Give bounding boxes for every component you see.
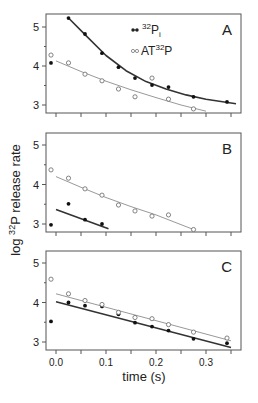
panel-c: 345C0.00.10.20.3 bbox=[33, 251, 241, 368]
data-point-open bbox=[83, 72, 87, 76]
data-point-filled bbox=[49, 320, 53, 324]
data-point-filled bbox=[49, 223, 53, 227]
data-point-filled bbox=[133, 76, 137, 80]
data-point-filled bbox=[49, 61, 53, 65]
data-point-filled bbox=[83, 32, 87, 36]
panel-label: C bbox=[221, 258, 232, 275]
figure: 345A345B345C0.00.10.20.3 log 32P release… bbox=[0, 0, 258, 403]
data-point-open bbox=[166, 97, 170, 101]
data-point-filled bbox=[192, 95, 196, 99]
data-point-filled bbox=[167, 329, 171, 333]
x-tick-label: 0.0 bbox=[49, 357, 63, 368]
open-marker-icon bbox=[131, 49, 134, 52]
data-point-filled bbox=[117, 65, 121, 69]
data-point-filled bbox=[225, 100, 229, 104]
data-point-open bbox=[83, 187, 87, 191]
y-tick-label: 4 bbox=[33, 297, 39, 309]
svg-text:AT32P: AT32P bbox=[141, 43, 172, 58]
panel-label: B bbox=[222, 140, 232, 157]
data-point-filled bbox=[83, 304, 87, 308]
data-point-open bbox=[49, 277, 53, 281]
y-tick-label: 5 bbox=[33, 257, 39, 269]
data-point-open bbox=[191, 227, 195, 231]
data-point-filled bbox=[83, 218, 87, 222]
data-point-open bbox=[66, 292, 70, 296]
y-axis-label: log 32P release rate bbox=[7, 144, 23, 256]
x-tick-label: 0.3 bbox=[199, 357, 213, 368]
data-point-open bbox=[66, 176, 70, 180]
data-point-open bbox=[150, 317, 154, 321]
data-point-filled bbox=[67, 301, 71, 305]
data-point-open bbox=[166, 213, 170, 217]
data-point-open bbox=[49, 53, 53, 57]
y-tick-label: 3 bbox=[33, 336, 39, 348]
data-point-open bbox=[66, 61, 70, 65]
fit-line bbox=[56, 302, 231, 348]
data-point-filled bbox=[150, 325, 154, 329]
fit-line bbox=[56, 177, 194, 230]
fit-line bbox=[56, 61, 206, 111]
data-point-open bbox=[133, 95, 137, 99]
data-point-open bbox=[100, 79, 104, 83]
data-point-open bbox=[116, 203, 120, 207]
open-marker-icon bbox=[135, 49, 138, 52]
data-point-open bbox=[100, 193, 104, 197]
data-point-open bbox=[191, 330, 195, 334]
x-tick-label: 0.1 bbox=[99, 357, 113, 368]
data-point-filled bbox=[100, 222, 104, 226]
y-tick-label: 4 bbox=[33, 179, 39, 191]
y-tick-label: 4 bbox=[33, 60, 39, 72]
chart-svg: 345A345B345C0.00.10.20.3 log 32P release… bbox=[0, 0, 258, 403]
data-point-filled bbox=[167, 85, 171, 89]
y-tick-label: 5 bbox=[33, 21, 39, 33]
panel-label: A bbox=[222, 21, 232, 38]
x-tick-label: 0.2 bbox=[149, 357, 163, 368]
panel-b: 345B bbox=[33, 133, 241, 236]
data-point-filled bbox=[225, 341, 229, 345]
data-point-open bbox=[133, 315, 137, 319]
data-point-open bbox=[133, 209, 137, 213]
data-point-filled bbox=[150, 83, 154, 87]
legend-item-pi: 32Pi bbox=[131, 22, 161, 39]
fit-line bbox=[56, 294, 231, 341]
data-point-open bbox=[100, 302, 104, 306]
fit-line bbox=[56, 209, 109, 228]
data-point-open bbox=[225, 336, 229, 340]
data-point-filled bbox=[67, 202, 71, 206]
data-point-open bbox=[191, 107, 195, 111]
data-point-open bbox=[166, 323, 170, 327]
data-point-open bbox=[150, 214, 154, 218]
svg-text:32Pi: 32Pi bbox=[142, 22, 161, 39]
data-point-open bbox=[49, 168, 53, 172]
legend: 32Pi AT32P bbox=[131, 22, 172, 58]
data-point-filled bbox=[100, 51, 104, 55]
data-point-open bbox=[150, 76, 154, 80]
legend-item-atp: AT32P bbox=[131, 43, 172, 58]
y-tick-label: 3 bbox=[33, 218, 39, 230]
x-axis-label: time (s) bbox=[122, 369, 165, 384]
data-point-filled bbox=[133, 321, 137, 325]
data-point-open bbox=[116, 87, 120, 91]
data-point-filled bbox=[67, 16, 71, 20]
data-point-open bbox=[83, 298, 87, 302]
data-point-filled bbox=[192, 337, 196, 341]
data-point-open bbox=[116, 310, 120, 314]
y-tick-label: 3 bbox=[33, 99, 39, 111]
y-tick-label: 5 bbox=[33, 139, 39, 151]
